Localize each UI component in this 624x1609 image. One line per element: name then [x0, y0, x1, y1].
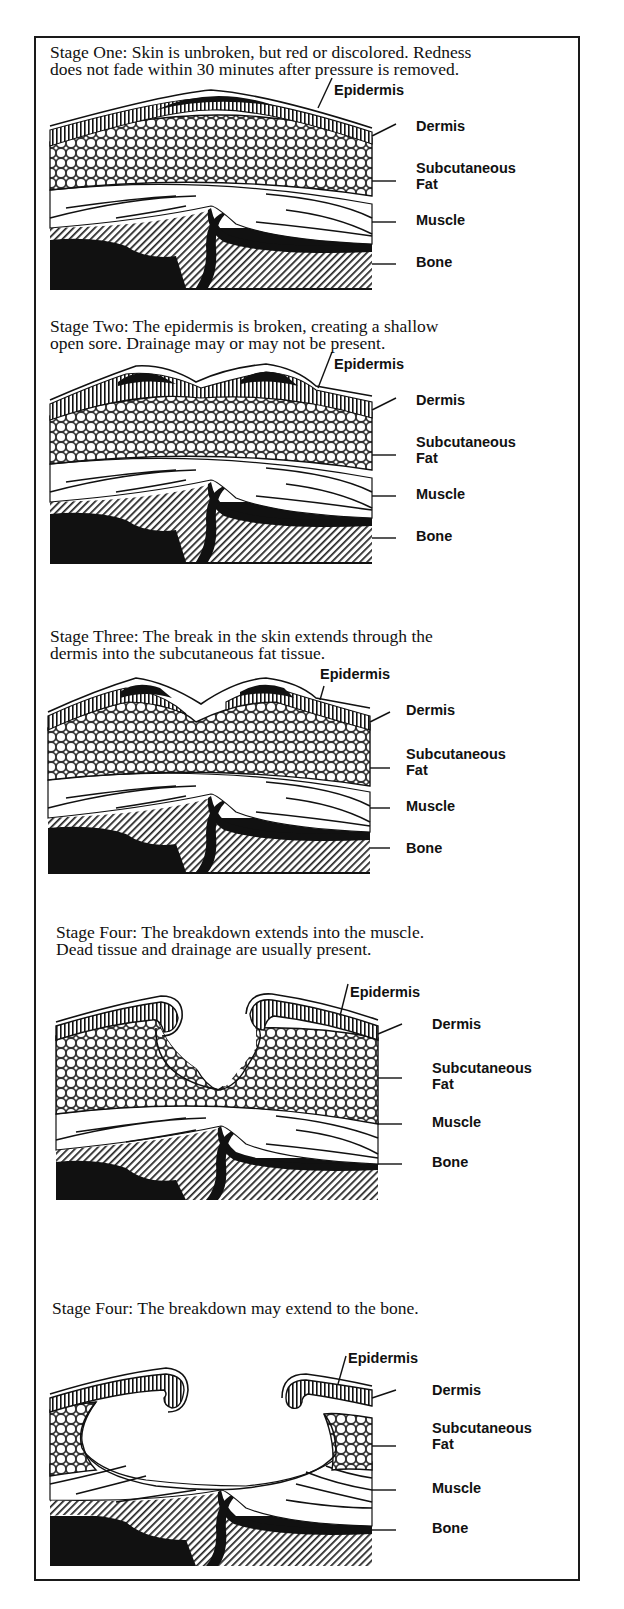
label-subcutaneous-fat: Subcutaneous Fat [432, 1420, 532, 1452]
label-muscle: Muscle [416, 212, 465, 228]
label-bone: Bone [432, 1154, 468, 1170]
label-epidermis: Epidermis [334, 82, 404, 98]
label-subcutaneous-fat: Subcutaneous Fat [416, 160, 516, 192]
stage-four-muscle-panel: Stage Four: The breakdown extends into t… [36, 918, 578, 1218]
label-muscle: Muscle [406, 798, 455, 814]
label-epidermis: Epidermis [348, 1350, 418, 1366]
label-epidermis: Epidermis [334, 356, 404, 372]
label-dermis: Dermis [432, 1382, 481, 1398]
label-subcutaneous-fat: Subcutaneous Fat [406, 746, 506, 778]
label-bone: Bone [432, 1520, 468, 1536]
label-dermis: Dermis [432, 1016, 481, 1032]
pressure-ulcer-stages-figure: Stage One: Skin is unbroken, but red or … [34, 36, 580, 1581]
label-bone: Bone [416, 254, 452, 270]
stage-one-panel: Stage One: Skin is unbroken, but red or … [36, 38, 578, 308]
label-dermis: Dermis [416, 118, 465, 134]
label-bone: Bone [406, 840, 442, 856]
label-dermis: Dermis [406, 702, 455, 718]
label-muscle: Muscle [432, 1114, 481, 1130]
label-epidermis: Epidermis [350, 984, 420, 1000]
label-subcutaneous-fat: Subcutaneous Fat [416, 434, 516, 466]
label-muscle: Muscle [416, 486, 465, 502]
label-bone: Bone [416, 528, 452, 544]
label-subcutaneous-fat: Subcutaneous Fat [432, 1060, 532, 1092]
label-muscle: Muscle [432, 1480, 481, 1496]
stage-four-bone-panel: Stage Four: The breakdown may extend to … [36, 1294, 578, 1579]
stage-three-panel: Stage Three: The break in the skin exten… [36, 622, 578, 892]
label-dermis: Dermis [416, 392, 465, 408]
stage-two-panel: Stage Two: The epidermis is broken, crea… [36, 312, 578, 582]
label-epidermis: Epidermis [320, 666, 390, 682]
